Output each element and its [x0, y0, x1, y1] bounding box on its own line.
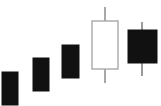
candle-1-body [2, 72, 18, 105]
candle-2-body [33, 58, 49, 91]
candle-4-body [92, 21, 118, 69]
candle-3 [62, 45, 79, 78]
candle-5-body [128, 30, 157, 63]
candlestick-plot-area [0, 0, 161, 106]
candlestick-chart [0, 0, 161, 106]
candle-4 [92, 7, 118, 83]
candle-3-body [62, 45, 79, 78]
candle-5 [128, 22, 157, 76]
candle-2 [33, 58, 49, 91]
candle-1 [2, 72, 18, 105]
